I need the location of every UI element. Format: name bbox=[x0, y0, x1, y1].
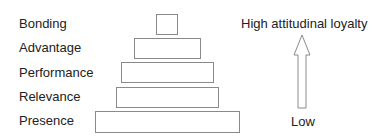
low-label: Low bbox=[291, 114, 315, 130]
up-arrow-icon bbox=[0, 0, 382, 140]
